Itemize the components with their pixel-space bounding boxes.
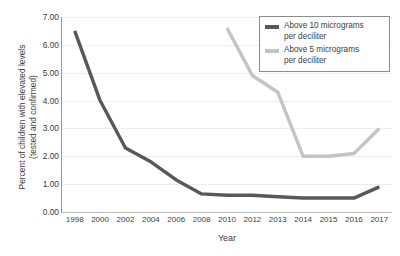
x-tick-label: 2004 xyxy=(142,215,160,224)
x-tick-label: 2010 xyxy=(218,215,236,224)
y-tick-label: 6.00 xyxy=(28,40,59,50)
y-tick-label: 0.00 xyxy=(28,207,59,217)
x-tick-label: 2015 xyxy=(320,215,338,224)
x-tick-label: 2000 xyxy=(91,215,109,224)
x-tick-label: 2017 xyxy=(370,215,388,224)
chart-legend: Above 10 microgramsper deciliterAbove 5 … xyxy=(259,16,390,72)
x-tick-label: 2013 xyxy=(269,215,287,224)
y-tick-label: 5.00 xyxy=(28,68,59,78)
x-axis-tick-labels: 1998200020022004200620082010201220132014… xyxy=(62,215,392,229)
legend-swatch-icon xyxy=(265,25,279,29)
line-chart: Percent of children with elevated levels… xyxy=(0,0,400,256)
x-tick-label: 2014 xyxy=(294,215,312,224)
legend-label: Above 10 microgramsper deciliter xyxy=(284,21,364,42)
y-tick-label: 2.00 xyxy=(28,151,59,161)
legend-label-line-1: Above 10 micrograms xyxy=(284,21,364,30)
y-tick-label: 7.00 xyxy=(28,12,59,22)
legend-label: Above 5 microgramsper deciliter xyxy=(284,45,359,66)
legend-item-2[interactable]: Above 5 microgramsper deciliter xyxy=(265,45,384,66)
y-tick-label: 4.00 xyxy=(28,96,59,106)
x-tick-label: 2006 xyxy=(167,215,185,224)
gridline-0 xyxy=(62,212,392,213)
y-tick-label: 1.00 xyxy=(28,179,59,189)
legend-label-line-2: per deciliter xyxy=(284,56,359,67)
y-tick-label: 3.00 xyxy=(28,123,59,133)
y-axis-tick-labels: 0.001.002.003.004.005.006.007.00 xyxy=(28,0,59,256)
legend-swatch-icon xyxy=(265,49,279,53)
x-tick-label: 2016 xyxy=(345,215,363,224)
y-axis-title-line-1: Percent of children with elevated levels xyxy=(17,45,29,190)
legend-label-line-1: Above 5 micrograms xyxy=(284,45,359,54)
x-tick-label: 2002 xyxy=(117,215,135,224)
x-tick-label: 1998 xyxy=(66,215,84,224)
x-axis-title: Year xyxy=(62,233,392,243)
legend-item-1[interactable]: Above 10 microgramsper deciliter xyxy=(265,21,384,42)
x-tick-label: 2012 xyxy=(243,215,261,224)
legend-label-line-2: per deciliter xyxy=(284,32,364,43)
x-tick-label: 2008 xyxy=(193,215,211,224)
